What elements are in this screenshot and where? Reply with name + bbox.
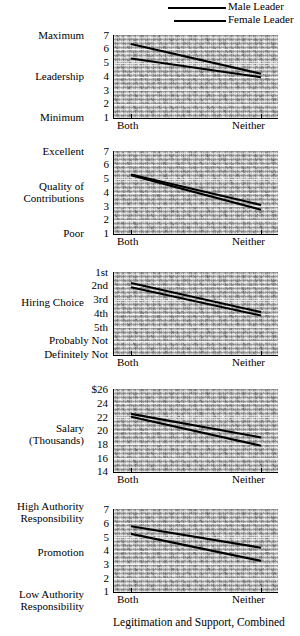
plot-area-leadership: [113, 35, 278, 119]
ytick-6: 6: [97, 518, 109, 529]
ytick-5: 5: [97, 532, 109, 543]
line-male: [131, 414, 261, 438]
ytick-24: 24: [76, 398, 108, 409]
ytick-14: 14: [76, 466, 108, 477]
panel-title-salary: Salary (Thousands): [0, 422, 84, 446]
line-male: [131, 175, 261, 205]
ytick-7: 7: [97, 146, 109, 157]
ytick-5: 5: [97, 57, 109, 68]
ytick-4: 4: [97, 545, 109, 556]
ytick-2: 2: [97, 573, 109, 584]
series-lines-salary: [114, 389, 278, 472]
panel-title-promotion: Promotion: [0, 546, 84, 558]
line-male: [131, 283, 261, 312]
ytick-3: 3: [97, 201, 109, 212]
ytick-5: 5: [97, 173, 109, 184]
line-female: [131, 59, 261, 78]
ylabel-maximum: Maximum: [0, 30, 84, 41]
line-female: [131, 287, 261, 315]
xtick-both: Both: [117, 593, 138, 605]
series-lines-quality: [114, 151, 278, 234]
ytick-4: 4: [97, 71, 109, 82]
ytick-7: 7: [97, 30, 109, 41]
panel-promotion: High Authority Responsibility Low Author…: [0, 478, 300, 618]
line-female: [131, 175, 261, 210]
plot-area-quality: [113, 151, 278, 235]
panel-title-leadership: Leadership: [0, 70, 84, 82]
source-note-wrap: SOURCE: Brown & Geis, Journal of Persona…: [285, 340, 297, 630]
series-lines-hiring: [114, 272, 278, 355]
ytick-2: 2: [97, 98, 109, 109]
plot-area-hiring: [113, 272, 278, 356]
panel-title-quality: Quality of Contributions: [0, 180, 84, 204]
ytick-2: 2: [97, 214, 109, 225]
ytick-16: 16: [76, 453, 108, 464]
ytick-1: 1: [97, 586, 109, 597]
panel-quality: Excellent Poor Quality of Contributions …: [0, 118, 300, 238]
plot-area-promotion: [113, 509, 278, 593]
ylabel-high-authority: High Authority Responsibility: [0, 500, 84, 524]
panel-hiring: Hiring Choice 1st 2nd 3rd 4th 5th Probab…: [0, 236, 300, 360]
figure-root: Male Leader Female Leader Maximum Minimu…: [0, 0, 300, 636]
ytick-6: 6: [97, 43, 109, 54]
ytick-3: 3: [97, 85, 109, 96]
panel-salary: Salary (Thousands) $26 24 22 20 18 16 14: [0, 358, 300, 480]
ytick-4th: 4th: [0, 308, 108, 319]
ytick-5th: 5th: [0, 322, 108, 333]
line-male: [131, 44, 261, 74]
ytick-2nd: 2nd: [0, 280, 108, 291]
ytick-3: 3: [97, 559, 109, 570]
series-lines-leadership: [114, 35, 278, 118]
x-axis-title: Legitimation and Support, Combined: [113, 616, 285, 629]
ytick-probably-not: Probably Not: [0, 335, 108, 346]
ylabel-low-authority: Low Authority Responsibility: [0, 588, 84, 612]
ytick-26: $26: [76, 384, 108, 395]
ytick-4: 4: [97, 187, 109, 198]
xtick-neither: Neither: [232, 593, 265, 605]
ytick-3rd: 3rd: [0, 294, 108, 305]
line-female: [131, 417, 261, 446]
series-lines-promotion: [114, 509, 278, 592]
plot-area-salary: [113, 389, 278, 473]
ytick-1st: 1st: [0, 267, 108, 278]
source-note: SOURCE: Brown & Geis, Journal of Persona…: [285, 623, 292, 636]
ytick-6: 6: [97, 159, 109, 170]
ytick-18: 18: [76, 439, 108, 450]
panel-leadership: Maximum Minimum Leadership 7 6 5 4 3 2 1: [0, 0, 300, 120]
ylabel-excellent: Excellent: [0, 146, 84, 157]
ytick-22: 22: [76, 412, 108, 423]
ytick-20: 20: [76, 425, 108, 436]
ytick-7: 7: [97, 504, 109, 515]
